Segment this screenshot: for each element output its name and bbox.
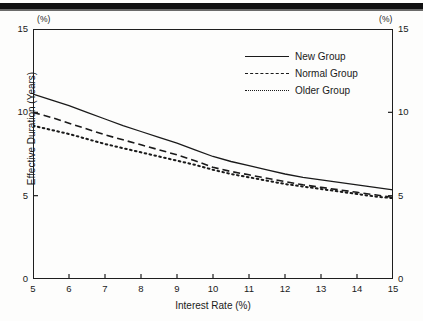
x-tick-label-13: 13 xyxy=(306,283,336,294)
y-tick-label-left-5: 5 xyxy=(0,190,28,201)
chart-page: (%) (%) 151050 151050 56789101112131415 … xyxy=(0,0,423,321)
x-tick-label-10: 10 xyxy=(198,283,228,294)
legend-item-normal-group: Normal Group xyxy=(245,65,395,82)
y-tick-label-left-15: 15 xyxy=(0,23,28,34)
x-tick-label-5: 5 xyxy=(18,283,48,294)
x-tick-label-6: 6 xyxy=(54,283,84,294)
chart-legend: New GroupNormal GroupOlder Group xyxy=(245,48,395,99)
scan-artifact-bar xyxy=(0,3,423,9)
legend-label: Older Group xyxy=(295,85,350,96)
x-tick-label-12: 12 xyxy=(270,283,300,294)
legend-label: New Group xyxy=(295,51,346,62)
x-tick-label-7: 7 xyxy=(90,283,120,294)
legend-swatch-dotted xyxy=(245,86,289,96)
series-line-older-group xyxy=(33,126,393,199)
legend-swatch-dashed xyxy=(245,69,289,79)
y-tick-label-right-15: 15 xyxy=(398,23,420,34)
x-tick-label-14: 14 xyxy=(342,283,372,294)
legend-swatch-solid xyxy=(245,52,289,62)
legend-label: Normal Group xyxy=(295,68,358,79)
y-tick-label-right-10: 10 xyxy=(398,106,420,117)
x-tick-label-8: 8 xyxy=(126,283,156,294)
series-line-new-group xyxy=(33,94,393,190)
y-tick-label-right-5: 5 xyxy=(398,190,420,201)
legend-item-older-group: Older Group xyxy=(245,82,395,99)
legend-line-solid xyxy=(245,56,289,57)
x-tick-label-9: 9 xyxy=(162,283,192,294)
legend-line-dotted xyxy=(245,90,289,91)
y-axis-title: Effective Duration (Years) xyxy=(26,44,37,214)
x-tick-label-11: 11 xyxy=(234,283,264,294)
right-axis-unit-label: (%) xyxy=(379,14,393,24)
legend-line-dashed xyxy=(245,73,289,74)
y-tick-label-left-10: 10 xyxy=(0,106,28,117)
x-axis-title: Interest Rate (%) xyxy=(33,300,393,311)
series-line-normal-group xyxy=(33,112,393,197)
legend-item-new-group: New Group xyxy=(245,48,395,65)
x-tick-label-15: 15 xyxy=(378,283,408,294)
left-axis-unit-label: (%) xyxy=(37,14,51,24)
